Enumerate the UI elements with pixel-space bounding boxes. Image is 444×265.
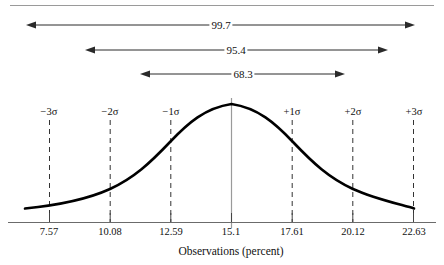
x-tick-label-5: 17.61 — [280, 226, 304, 237]
x-tick-label-3: 12.59 — [159, 226, 183, 237]
x-tick-label-4: 15.1 — [222, 226, 240, 237]
sigma-label-minus1: −1σ — [163, 106, 180, 117]
normal-distribution-figure: 99.7 95.4 68.3 −3σ −2σ −1σ +1σ +2σ +3σ 7… — [0, 0, 444, 265]
coverage-label-954: 95.4 — [224, 44, 247, 56]
sigma-label-plus3: +3σ — [406, 106, 423, 117]
coverage-label-997: 99.7 — [209, 19, 232, 31]
normal-curve — [25, 104, 414, 209]
sigma-label-plus1: +1σ — [284, 106, 301, 117]
x-axis-ticks — [50, 213, 414, 222]
x-tick-label-2: 10.08 — [98, 226, 122, 237]
sigma-label-minus2: −2σ — [102, 106, 119, 117]
sigma-label-plus2: +2σ — [345, 106, 362, 117]
x-tick-label-6: 20.12 — [341, 226, 365, 237]
x-tick-label-7: 22.63 — [402, 226, 426, 237]
sigma-label-minus3: −3σ — [41, 106, 58, 117]
x-tick-label-1: 7.57 — [40, 226, 58, 237]
coverage-label-683: 68.3 — [231, 68, 254, 80]
x-axis-title: Observations (percent) — [178, 245, 283, 257]
